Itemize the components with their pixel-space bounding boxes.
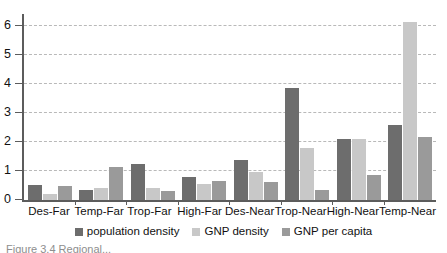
legend-item[interactable]: GNP per capita (282, 226, 372, 238)
y-axis-tick-label: 1 (4, 164, 11, 177)
y-axis-tick: 4 (15, 83, 22, 84)
bar-group (179, 14, 231, 200)
bar (161, 191, 175, 200)
y-axis-tick-label: 6 (4, 18, 11, 31)
y-axis-tick: 0 (15, 199, 22, 200)
bar (367, 175, 381, 200)
y-axis-tick: 6 (15, 25, 22, 26)
bar (300, 148, 314, 200)
bar (212, 181, 226, 200)
x-axis-category-label: Des-Far (24, 206, 74, 218)
legend-label: population density (87, 226, 180, 238)
y-axis-tick-label: 2 (4, 135, 11, 148)
bar-group (385, 14, 437, 200)
x-axis-category-label: Trop-Far (124, 206, 174, 218)
bar (352, 139, 366, 200)
y-axis-tick: 5 (15, 54, 22, 55)
bar (418, 137, 432, 200)
bar (94, 188, 108, 200)
bar (285, 88, 299, 200)
y-axis-tick: 2 (15, 141, 22, 142)
legend-label: GNP per capita (294, 226, 372, 238)
legend-item[interactable]: GNP density (192, 226, 268, 238)
bar-group (76, 14, 128, 200)
y-axis-tick: 3 (15, 112, 22, 113)
y-axis-tick: 1 (15, 170, 22, 171)
y-axis-tick-label: 4 (4, 77, 11, 90)
bar-groups (24, 14, 436, 200)
figure-caption: Figure 3.4 Regional... (6, 244, 111, 253)
x-axis-category-label: High-Near (327, 206, 379, 218)
bar (234, 160, 248, 200)
bar (197, 184, 211, 200)
legend-item[interactable]: population density (75, 226, 180, 238)
legend-swatch-icon (282, 228, 290, 236)
bar (109, 167, 123, 200)
x-axis-category-label: Temp-Far (74, 206, 124, 218)
bar (28, 185, 42, 200)
bar-group (24, 14, 76, 200)
bar (146, 188, 160, 200)
y-axis-tick-label: 5 (4, 47, 11, 60)
bar (43, 194, 57, 200)
y-axis-tick-label: 3 (4, 106, 11, 119)
bar (58, 186, 72, 200)
bar (403, 22, 417, 200)
legend-swatch-icon (75, 228, 83, 236)
bar (249, 172, 263, 200)
bar (388, 125, 402, 200)
bar (264, 182, 278, 200)
bar (182, 177, 196, 200)
bar-group (333, 14, 385, 200)
plot-area: 0123456 (22, 14, 436, 202)
bar-group (127, 14, 179, 200)
bar (315, 190, 329, 200)
bar-group (282, 14, 334, 200)
legend-label: GNP density (204, 226, 268, 238)
legend-swatch-icon (192, 228, 200, 236)
x-axis-category-label: High-Far (174, 206, 224, 218)
x-axis-category-labels: Des-FarTemp-FarTrop-FarHigh-FarDes-NearT… (24, 206, 436, 218)
x-axis-category-label: Trop-Near (275, 206, 327, 218)
x-axis-category-label: Temp-Near (379, 206, 436, 218)
bar (79, 190, 93, 200)
bar (131, 164, 145, 200)
x-axis-category-label: Des-Near (225, 206, 275, 218)
bar-group (230, 14, 282, 200)
chart-legend: population densityGNP densityGNP per cap… (0, 226, 447, 238)
y-axis-tick-label: 0 (4, 193, 11, 206)
bar (337, 139, 351, 200)
bar-chart-figure: 0123456 Des-FarTemp-FarTrop-FarHigh-FarD… (0, 0, 447, 253)
